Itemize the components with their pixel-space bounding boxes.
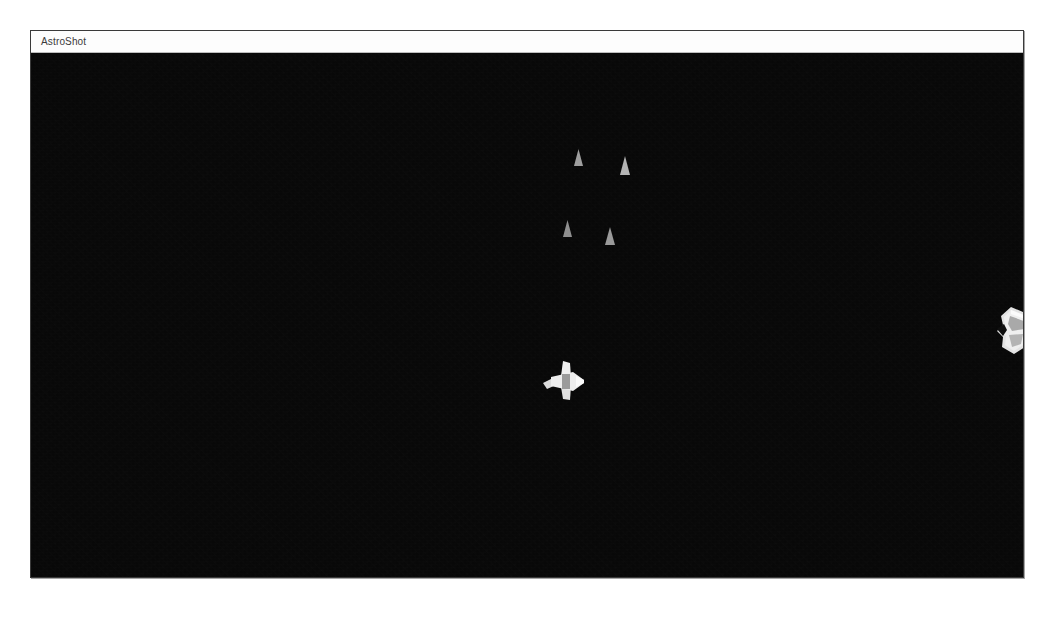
player-ship-body [543, 361, 584, 400]
projectile-sprite [605, 227, 615, 245]
game-canvas[interactable] [31, 53, 1023, 577]
projectile-sprite [620, 156, 630, 175]
player-ship-sprite[interactable] [543, 361, 585, 401]
window-title-bar[interactable]: AstroShot [31, 31, 1023, 53]
window-title-text: AstroShot [41, 37, 86, 47]
projectile-sprite [563, 220, 572, 237]
asteroid-body [997, 307, 1023, 354]
sprite-layer [31, 53, 1023, 577]
asteroid-sprite[interactable] [997, 307, 1023, 355]
application-window[interactable]: AstroShot [30, 30, 1024, 578]
projectile-sprite [574, 149, 583, 166]
